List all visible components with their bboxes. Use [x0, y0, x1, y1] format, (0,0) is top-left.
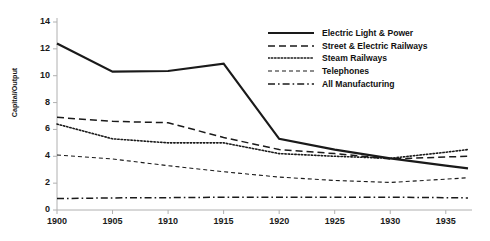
x-tick-label: 1935	[423, 216, 469, 226]
x-tick-label: 1905	[90, 216, 136, 226]
legend-label: All Manufacturing	[322, 79, 395, 89]
series-line	[57, 124, 468, 158]
legend-item: Street & Electric Railways	[268, 40, 468, 53]
y-tick-label: 6	[24, 123, 50, 133]
x-tick-label: 1910	[145, 216, 191, 226]
legend-label: Street & Electric Railways	[322, 41, 428, 51]
legend-item: Steam Railways	[268, 52, 468, 65]
legend-line-sample	[268, 41, 316, 51]
legend-line-sample	[268, 53, 316, 63]
legend-line-sample	[268, 28, 316, 38]
series-line	[57, 117, 468, 159]
legend-label: Steam Railways	[322, 53, 387, 63]
legend-label: Telephones	[322, 66, 369, 76]
x-tick-label: 1930	[367, 216, 413, 226]
y-tick-label: 14	[24, 16, 50, 26]
y-tick-label: 4	[24, 150, 50, 160]
legend-line-sample	[268, 66, 316, 76]
x-tick-label: 1900	[34, 216, 80, 226]
series-line	[57, 197, 468, 198]
y-tick-label: 8	[24, 97, 50, 107]
legend-item: All Manufacturing	[268, 77, 468, 90]
y-tick-label: 0	[24, 204, 50, 214]
x-tick-label: 1920	[256, 216, 302, 226]
x-tick-label: 1915	[201, 216, 247, 226]
legend-item: Electric Light & Power	[268, 27, 468, 40]
y-tick-label: 10	[24, 70, 50, 80]
legend-item: Telephones	[268, 65, 468, 78]
y-tick-label: 12	[24, 43, 50, 53]
y-axis-title: Capital/Output	[10, 58, 19, 128]
chart-legend: Electric Light & PowerStreet & Electric …	[268, 27, 468, 90]
chart-container: Capital/Output 02468101214 1900190519101…	[0, 0, 490, 241]
legend-label: Electric Light & Power	[322, 28, 413, 38]
x-tick-label: 1925	[312, 216, 358, 226]
y-tick-label: 2	[24, 177, 50, 187]
legend-line-sample	[268, 79, 316, 89]
